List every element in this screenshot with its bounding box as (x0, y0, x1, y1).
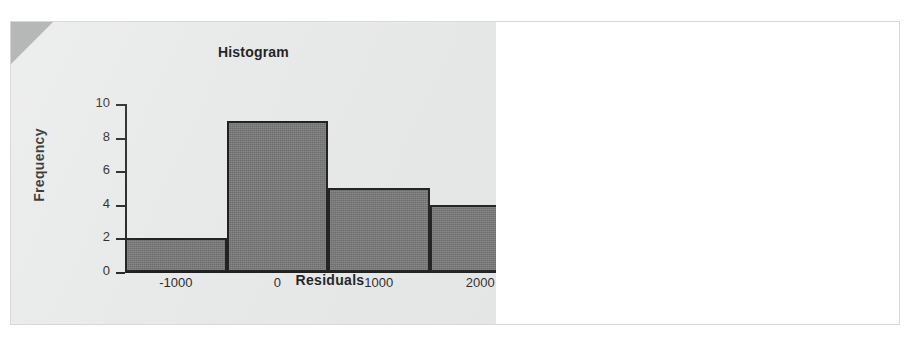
bars-layer (125, 104, 496, 272)
histogram-bar[interactable] (125, 238, 227, 272)
y-tick-label: 2 (70, 229, 110, 244)
y-tick-mark (116, 238, 125, 240)
axis-area: 10 8 6 4 2 0 -1000 0 1000 2000 (114, 82, 496, 282)
y-tick-label: 10 (70, 95, 110, 110)
x-tick-label: 2000 (435, 275, 496, 290)
y-tick-label: 6 (70, 162, 110, 177)
histogram-plot: Histogram Frequency Residuals 10 8 6 4 2… (11, 22, 496, 324)
y-tick-label: 0 (70, 263, 110, 278)
y-tick-label: 4 (70, 196, 110, 211)
blank-page-area (496, 22, 899, 324)
y-tick-mark (116, 138, 125, 140)
histogram-bar[interactable] (227, 121, 329, 272)
histogram-bar[interactable] (430, 205, 497, 272)
y-tick-mark (116, 205, 125, 207)
y-tick-mark (116, 171, 125, 173)
histogram-bar[interactable] (328, 188, 430, 272)
page-corner-fold (11, 22, 53, 64)
scanned-page: Histogram Frequency Residuals 10 8 6 4 2… (0, 0, 913, 343)
chart-panel: Histogram Frequency Residuals 10 8 6 4 2… (11, 22, 496, 324)
y-tick-mark (116, 272, 125, 274)
y-axis-label: Frequency (31, 100, 47, 230)
x-tick-label: 1000 (334, 275, 424, 290)
x-tick-label: 0 (232, 275, 322, 290)
y-tick-label: 8 (70, 129, 110, 144)
x-tick-label: -1000 (131, 275, 221, 290)
chart-title: Histogram (11, 44, 496, 60)
y-tick-mark (116, 104, 125, 106)
